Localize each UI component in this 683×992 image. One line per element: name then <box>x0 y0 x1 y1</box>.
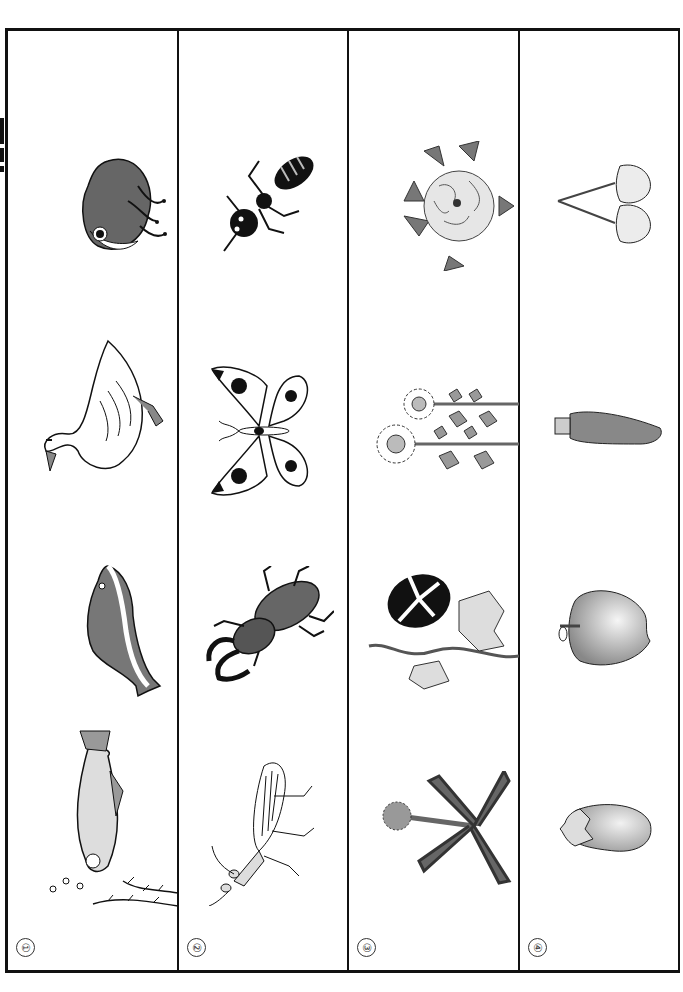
dandelion-icon <box>379 771 514 886</box>
butterfly-icon <box>209 361 319 501</box>
fish-icon <box>28 721 178 921</box>
dolphin-icon <box>68 561 163 701</box>
frog-icon <box>68 146 168 266</box>
column-fruits-vegetables: ④ <box>520 31 683 970</box>
praying-mantis-icon <box>204 756 339 906</box>
column-number-1: ① <box>16 938 35 957</box>
sunflower-icon <box>374 386 519 486</box>
peony-icon <box>399 141 514 271</box>
cherry-icon <box>555 161 655 251</box>
column-flowers: ③ <box>349 31 518 970</box>
column-animals: ① <box>8 31 177 970</box>
morning-glory-icon <box>364 571 519 691</box>
swan-icon <box>38 336 168 486</box>
eggplant-icon <box>555 801 655 856</box>
worksheet-frame: ① <box>5 28 680 973</box>
ant-icon <box>209 151 319 261</box>
carrot-icon <box>550 406 665 451</box>
column-number-2: ② <box>187 938 206 957</box>
column-number-3: ③ <box>357 938 376 957</box>
column-number-4: ④ <box>528 938 547 957</box>
stag-beetle-icon <box>199 566 334 686</box>
apple-icon <box>555 586 655 671</box>
column-insects: ② <box>179 31 347 970</box>
